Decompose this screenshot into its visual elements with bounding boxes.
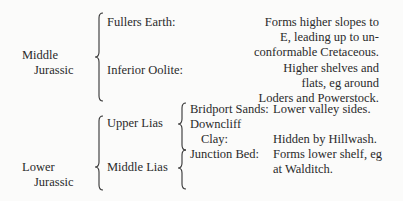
formation-downcliff-line1: Downcliff [190, 117, 241, 132]
era-label-middle-line1: Middle [22, 48, 58, 63]
group-middle-lias: Middle Lias [107, 160, 168, 175]
brace-middle-lias [178, 150, 186, 189]
formation-fullers-earth: Fullers Earth: [107, 15, 175, 30]
era-label-lower-line1: Lower [22, 160, 55, 175]
desc-inferior-oolite-2: flats, eg around [302, 76, 379, 91]
era-label-lower-line2: Jurassic [34, 175, 74, 190]
desc-fullers-earth-1: Forms higher slopes to [265, 15, 379, 30]
group-upper-lias: Upper Lias [107, 116, 163, 131]
brace-lower-jurassic [95, 116, 103, 190]
formation-inferior-oolite: Inferior Oolite: [107, 63, 183, 78]
desc-junction-bed-2: at Walditch. [273, 162, 333, 177]
era-label-middle-line2: Jurassic [34, 63, 74, 78]
desc-downcliff-clay: Hidden by Hillwash. [273, 132, 377, 147]
desc-fullers-earth-3: conformable Cretaceous. [254, 45, 379, 60]
desc-fullers-earth-2: E, leading up to un- [280, 30, 379, 45]
desc-inferior-oolite-1: Higher shelves and [283, 61, 379, 76]
desc-bridport-sands: Lower valley sides. [273, 102, 371, 117]
formation-downcliff-line2: Clay: [201, 132, 228, 147]
brace-upper-lias [178, 103, 186, 150]
brace-middle-jurassic [95, 13, 103, 101]
desc-junction-bed-1: Forms lower shelf, eg [273, 147, 382, 162]
formation-bridport-sands: Bridport Sands: [190, 102, 269, 117]
formation-junction-bed: Junction Bed: [190, 147, 259, 162]
